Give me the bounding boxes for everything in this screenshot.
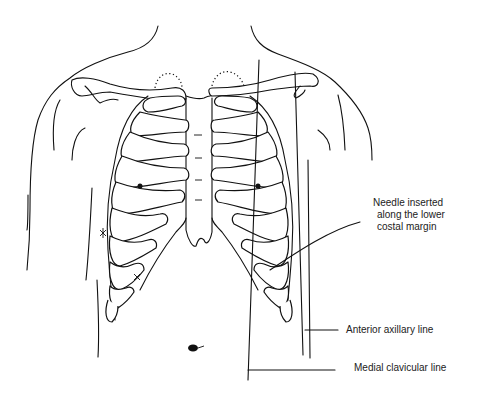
torso-outline	[27, 26, 372, 357]
anterior-axillary-line	[295, 72, 303, 355]
rib-cage-left	[100, 96, 189, 322]
clavicles	[71, 72, 318, 103]
medial-clavicular-line-label: Medial clavicular line	[354, 362, 446, 374]
needle-label: Needle inserted along the lower costal m…	[373, 197, 445, 233]
anterior-axillary-line-label: Anterior axillary line	[346, 324, 433, 336]
rib-cage-right	[211, 96, 293, 322]
sternum	[186, 98, 212, 246]
navel	[188, 345, 204, 352]
